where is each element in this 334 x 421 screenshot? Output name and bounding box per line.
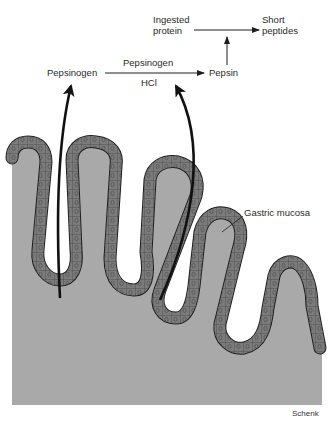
label-short-line1: Short (262, 14, 298, 25)
pepsin-activation-figure: Ingested protein Short peptides Pepsinog… (0, 0, 334, 421)
label-pepsin: Pepsin (209, 67, 238, 78)
label-short-peptides: Short peptides (262, 14, 298, 36)
label-ingested-protein: Ingested protein (153, 14, 189, 36)
label-hcl: HCl (141, 77, 157, 88)
label-credit: Schenk (292, 408, 319, 419)
label-gastric-mucosa: Gastric mucosa (244, 207, 310, 218)
label-pepsinogen: Pepsinogen (47, 67, 97, 78)
label-short-line2: peptides (262, 25, 298, 36)
label-pepsinogen-catalyst: Pepsinogen (123, 57, 173, 68)
label-ingested-line2: protein (153, 25, 189, 36)
label-ingested-line1: Ingested (153, 14, 189, 25)
